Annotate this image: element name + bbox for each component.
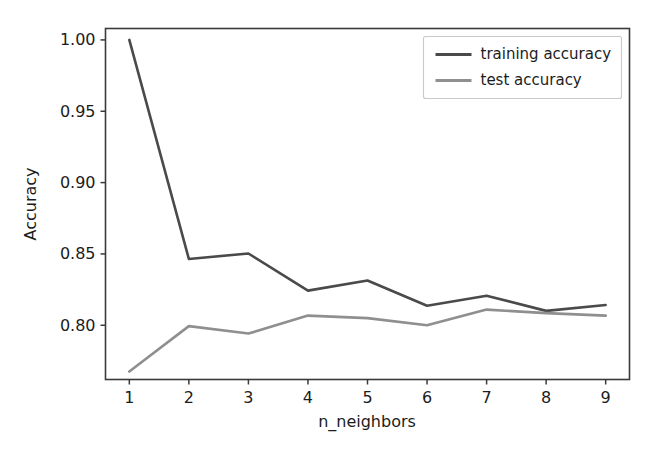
x-tick-label: 9 (601, 388, 611, 407)
x-tick-label: 8 (541, 388, 551, 407)
y-tick-label: 0.80 (60, 316, 96, 335)
x-tick-label: 5 (362, 388, 372, 407)
y-tick-label: 0.85 (60, 244, 96, 263)
x-tick-label: 1 (124, 388, 134, 407)
x-tick-label: 2 (184, 388, 194, 407)
y-tick-label: 0.90 (60, 173, 96, 192)
y-axis-title: Accuracy (21, 167, 40, 240)
chart-legend: training accuracytest accuracy (424, 37, 622, 99)
x-tick-label: 7 (481, 388, 491, 407)
x-tick-label: 6 (422, 388, 432, 407)
y-tick-label: 1.00 (60, 30, 96, 49)
y-tick-label: 0.95 (60, 102, 96, 121)
x-axis-title: n_neighbors (318, 412, 416, 432)
x-tick-label: 3 (243, 388, 253, 407)
line-chart: 0.800.850.900.951.00 123456789 Accuracy … (0, 0, 666, 451)
chart-figure: 0.800.850.900.951.00 123456789 Accuracy … (0, 0, 666, 451)
legend-label: test accuracy (481, 71, 582, 89)
legend-label: training accuracy (481, 45, 612, 63)
x-tick-label: 4 (303, 388, 313, 407)
